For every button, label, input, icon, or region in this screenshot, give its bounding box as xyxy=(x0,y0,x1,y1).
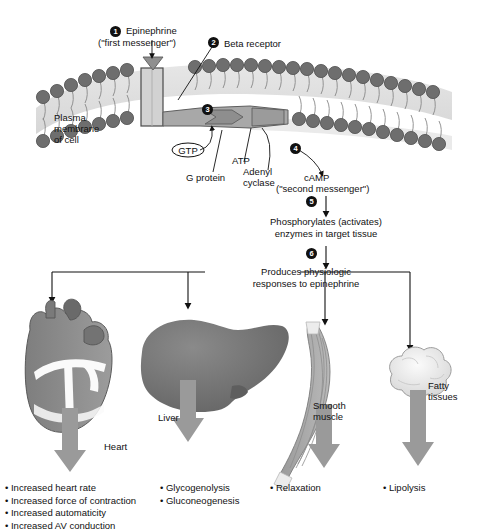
step-marker-3: 3 xyxy=(202,104,213,115)
adenyl-cyclase-shape xyxy=(252,108,284,126)
camp-label-line1: cAMP xyxy=(304,172,329,183)
list-item: • Relaxation xyxy=(270,482,321,495)
g-protein-adenyl-cyclase-complex xyxy=(163,106,288,128)
responses-label-line1: Produces physiologic xyxy=(206,266,406,277)
beta-receptor-label: Beta receptor xyxy=(224,38,281,49)
list-item: • Gluconeogenesis xyxy=(160,495,239,508)
epinephrine-label-line1: Epinephrine xyxy=(126,25,177,36)
smooth-muscle-effects-list: • Relaxation xyxy=(270,482,321,495)
fatty-tissues-label-line1: Fatty xyxy=(428,380,449,391)
list-item: • Increased automaticity xyxy=(5,507,136,520)
liver-label: Liver xyxy=(158,412,179,423)
fatty-tissues-effects-list: • Lipolysis xyxy=(383,482,425,495)
step-marker-6: 6 xyxy=(306,248,317,259)
adenyl-cyclase-label-line2: cyclase xyxy=(243,177,275,188)
step-marker-2: 2 xyxy=(208,37,219,48)
epinephrine-label-line2: ("first messenger") xyxy=(98,37,176,48)
step-marker-4: 4 xyxy=(290,143,301,154)
step-marker-5: 5 xyxy=(306,196,317,207)
atp-label: ATP xyxy=(232,155,250,166)
gtp-label: GTP xyxy=(172,145,204,156)
heart-effects-list: • Increased heart rate • Increased force… xyxy=(5,482,136,532)
responses-label-line2: responses to epinephrine xyxy=(206,278,406,289)
liver-illustration xyxy=(141,320,289,412)
list-item: • Glycogenolysis xyxy=(160,482,239,495)
list-item: • Increased heart rate xyxy=(5,482,136,495)
fatty-tissues-label-line2: tissues xyxy=(428,391,458,402)
adenyl-cyclase-label-line1: Adenyl xyxy=(243,166,272,177)
membrane-label-line3: of cell xyxy=(54,134,79,145)
heart-label: Heart xyxy=(104,441,127,452)
phosphorylation-label-line2: enzymes in target tissue xyxy=(226,228,426,239)
step-marker-1: 1 xyxy=(110,26,121,37)
list-item: • Lipolysis xyxy=(383,482,425,495)
list-item: • Increased AV conduction xyxy=(5,520,136,532)
plasma-membrane xyxy=(36,57,452,151)
liver-effects-list: • Glycogenolysis • Gluconeogenesis xyxy=(160,482,239,507)
smooth-muscle-label-line2: muscle xyxy=(313,411,343,422)
membrane-label-line2: membrane xyxy=(54,123,99,134)
membrane-label-line1: Plasma xyxy=(54,112,86,123)
list-item: • Increased force of contraction xyxy=(5,495,136,508)
g-protein-label: G protein xyxy=(186,172,225,183)
camp-label-line2: ("second messenger") xyxy=(276,183,369,194)
smooth-muscle-label-line1: Smooth xyxy=(313,400,346,411)
phosphorylation-label-line1: Phosphorylates (activates) xyxy=(226,216,426,227)
beta-receptor xyxy=(141,68,163,126)
